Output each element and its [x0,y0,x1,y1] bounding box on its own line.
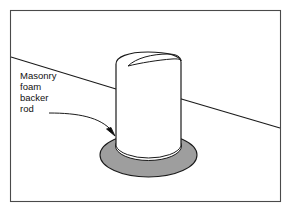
pipe-cylinder [116,62,181,158]
pipe-body-fill [116,64,181,158]
figure-container: Masonry foam backer rod [0,0,290,213]
backer-rod-diagram: Masonry foam backer rod [0,0,290,213]
callout-label-line-4: rod [20,103,34,114]
callout-label-line-1: Masonry [20,70,57,81]
callout-label-line-3: backer [20,92,49,103]
callout-label-line-2: foam [20,81,41,92]
